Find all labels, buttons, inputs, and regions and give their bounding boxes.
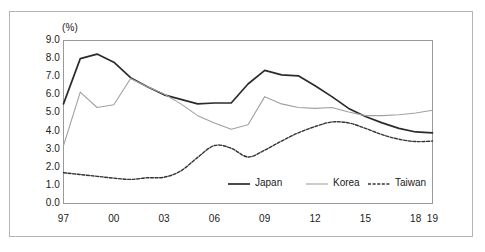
y-tick-label: 8.0 xyxy=(34,52,60,63)
y-tick-label: 6.0 xyxy=(34,88,60,99)
y-axis-unit-label: (%) xyxy=(62,22,78,33)
x-tick-label: 00 xyxy=(103,213,125,224)
x-tick-label: 09 xyxy=(254,213,276,224)
y-tick-label: 0.0 xyxy=(34,197,60,208)
y-tick-label: 4.0 xyxy=(34,125,60,136)
series-line-japan xyxy=(64,54,433,133)
series-lines xyxy=(64,54,433,179)
series-line-taiwan xyxy=(64,122,433,180)
x-tick-label: 97 xyxy=(53,213,75,224)
legend-label-taiwan: Taiwan xyxy=(395,177,426,188)
legend-label-korea: Korea xyxy=(333,177,360,188)
legend-label-japan: Japan xyxy=(255,177,282,188)
x-tick-label: 12 xyxy=(304,213,326,224)
x-tick-label: 15 xyxy=(354,213,376,224)
y-tick-label: 2.0 xyxy=(34,161,60,172)
y-tick-label: 1.0 xyxy=(34,179,60,190)
x-tick-label: 03 xyxy=(153,213,175,224)
series-line-korea xyxy=(64,79,433,146)
line-chart: (%) 0.01.02.03.04.05.06.07.08.09.0 97000… xyxy=(0,0,485,252)
y-tick-label: 3.0 xyxy=(34,143,60,154)
y-tick-label: 9.0 xyxy=(34,34,60,45)
y-tick-label: 5.0 xyxy=(34,106,60,117)
y-tick-label: 7.0 xyxy=(34,70,60,81)
x-tick-label: 19 xyxy=(422,213,444,224)
x-tick-label: 06 xyxy=(203,213,225,224)
